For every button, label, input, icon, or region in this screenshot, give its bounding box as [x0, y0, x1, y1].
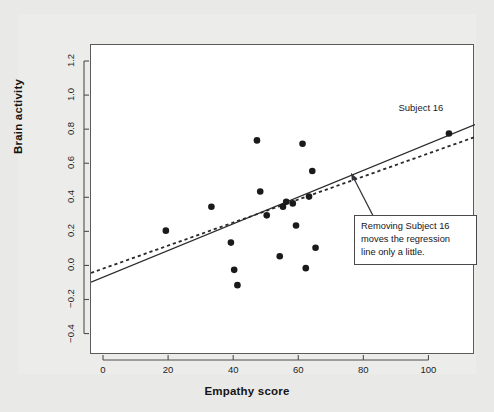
- scatter-point: [228, 239, 235, 246]
- scatter-point: [163, 227, 170, 234]
- figure-card: Brain activity −0.4−0.20.00.20.40.60.81.…: [18, 14, 476, 374]
- y-tick-label: 0.0: [65, 253, 76, 277]
- callout-arrow-line: [351, 174, 374, 218]
- scatter-point: [302, 265, 309, 272]
- scatter-point: [254, 137, 261, 144]
- y-tick-label: 0.4: [65, 185, 76, 209]
- scatter-point: [306, 193, 313, 200]
- scatter-point: [276, 253, 283, 260]
- y-tick-label: −0.2: [65, 287, 76, 311]
- y-tick-label: 0.2: [65, 219, 76, 243]
- x-tick-label: 0: [88, 364, 118, 375]
- x-tick-label: 40: [218, 364, 248, 375]
- scatter-point: [293, 222, 300, 229]
- y-tick-label: −0.4: [65, 321, 76, 345]
- scatter-point: [231, 267, 238, 274]
- scatter-point: [289, 200, 296, 207]
- scatter-point: [208, 204, 215, 211]
- x-tick-label: 20: [153, 364, 183, 375]
- figure-root: Brain activity −0.4−0.20.00.20.40.60.81.…: [0, 0, 494, 412]
- scatter-point: [299, 140, 306, 147]
- plot-canvas: [91, 45, 475, 355]
- scatter-point: [312, 244, 319, 251]
- scatter-point: [283, 198, 290, 205]
- y-tick-label: 0.8: [65, 117, 76, 141]
- y-axis-label: Brain activity: [12, 79, 24, 154]
- scatter-point: [257, 188, 264, 195]
- y-tick-label: 0.6: [65, 151, 76, 175]
- x-tick-label: 60: [283, 364, 313, 375]
- scatter-point: [446, 130, 453, 137]
- x-axis-label: Empathy score: [0, 385, 494, 397]
- plot-panel: [90, 44, 474, 354]
- scatter-point: [234, 282, 241, 289]
- scatter-point: [309, 168, 316, 175]
- regression-callout-box: Removing Subject 16 moves the regression…: [354, 215, 477, 265]
- subject-16-annotation: Subject 16: [398, 102, 443, 113]
- y-tick-label: 1.0: [65, 83, 76, 107]
- x-tick-label: 100: [413, 364, 443, 375]
- x-tick-label: 80: [348, 364, 378, 375]
- scatter-point: [263, 212, 270, 219]
- y-tick-label: 1.2: [65, 49, 76, 73]
